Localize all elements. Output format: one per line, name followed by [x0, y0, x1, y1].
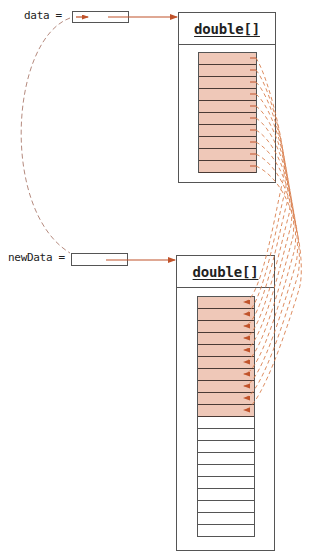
newdata-reference-box — [71, 253, 128, 266]
newdata-variable-label: newData = — [8, 251, 65, 264]
new-array-cell — [198, 441, 254, 453]
old-array-cell — [199, 149, 256, 161]
old-array-cell — [199, 65, 256, 77]
new-array-cell — [198, 465, 254, 477]
new-array-cell — [198, 501, 254, 513]
old-array-cells — [198, 52, 257, 173]
new-array-cell — [198, 405, 254, 417]
new-array-cell — [198, 357, 254, 369]
old-array-cell — [199, 113, 256, 125]
data-variable-label: data = — [24, 9, 62, 22]
new-array-cell — [198, 381, 254, 393]
old-array-type-label: double[] — [194, 21, 260, 37]
new-array-cell — [198, 369, 254, 381]
new-array-cell — [198, 309, 254, 321]
old-array-cell — [199, 125, 256, 137]
old-array-cell — [199, 137, 256, 149]
new-array-cell — [198, 525, 254, 537]
new-array-cell — [198, 477, 254, 489]
new-array-cell — [198, 345, 254, 357]
old-array-cell — [199, 161, 256, 173]
new-array-cell — [198, 321, 254, 333]
new-array-cell — [198, 453, 254, 465]
reassignment-dashed-curve — [21, 18, 70, 253]
old-array-header: double[] — [179, 13, 275, 45]
old-array-cell — [199, 101, 256, 113]
data-reference-box — [72, 11, 129, 23]
new-array-cells — [197, 296, 255, 537]
new-array-type-label: double[] — [193, 264, 259, 280]
new-array-cell — [198, 513, 254, 525]
old-array-cell — [199, 89, 256, 101]
new-array-header: double[] — [177, 256, 274, 288]
new-array-cell — [198, 297, 254, 309]
new-array-cell — [198, 333, 254, 345]
old-array-cell — [199, 53, 256, 65]
new-array-cell — [198, 417, 254, 429]
new-array-object: double[] — [176, 255, 275, 551]
new-array-cell — [198, 429, 254, 441]
new-array-cell — [198, 489, 254, 501]
new-array-cell — [198, 393, 254, 405]
old-array-object: double[] — [178, 12, 276, 183]
old-array-cell — [199, 77, 256, 89]
